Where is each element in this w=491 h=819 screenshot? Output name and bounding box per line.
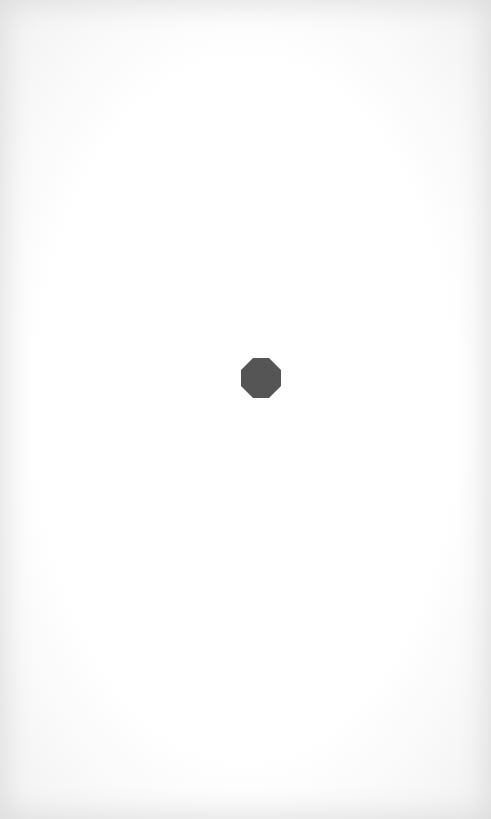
blank-page xyxy=(0,0,491,819)
octagon-icon xyxy=(241,358,281,398)
